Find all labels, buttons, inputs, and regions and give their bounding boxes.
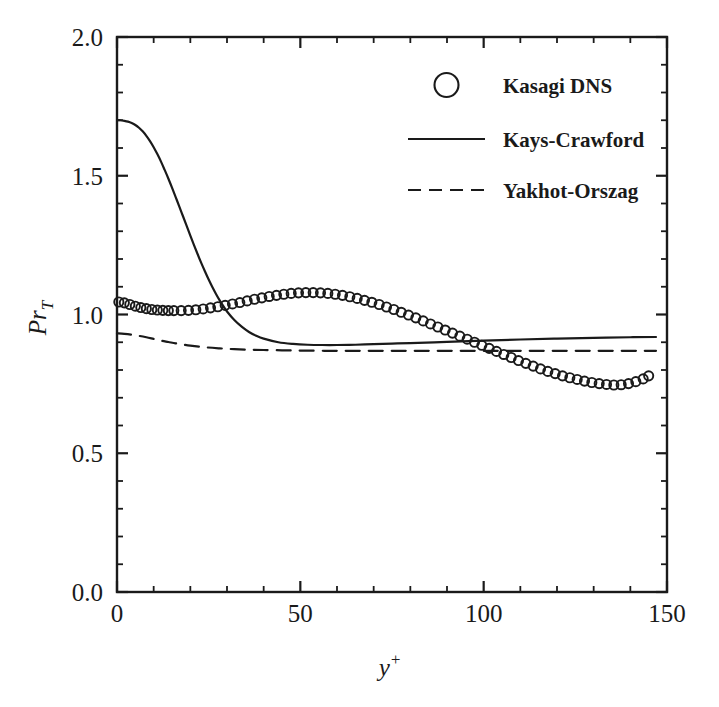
x-tick-label: 100: [465, 600, 503, 627]
figure-background: [0, 0, 719, 707]
x-tick-label: 150: [648, 600, 686, 627]
y-tick-label: 2.0: [72, 24, 103, 51]
x-tick-label: 50: [288, 600, 313, 627]
y-tick-label: 1.5: [72, 163, 103, 190]
x-tick-label: 0: [111, 600, 124, 627]
figure-root: 050100150 0.00.51.01.52.0 Kasagi DNSKays…: [0, 0, 719, 707]
prandtl-number-chart: 050100150 0.00.51.01.52.0 Kasagi DNSKays…: [0, 0, 719, 707]
y-tick-label: 0.5: [72, 440, 103, 467]
legend-label: Yakhot-Orszag: [503, 179, 639, 203]
y-tick-label: 0.0: [72, 579, 103, 606]
legend-label: Kasagi DNS: [503, 74, 612, 98]
y-tick-label: 1.0: [72, 302, 103, 329]
legend-label: Kays-Crawford: [503, 128, 644, 152]
